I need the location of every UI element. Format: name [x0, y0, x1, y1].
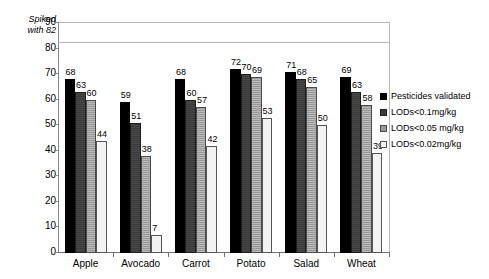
- bar-value-label: 63: [76, 81, 86, 90]
- bar: [196, 107, 207, 253]
- y-axis-tick-mark: [54, 252, 59, 253]
- y-axis-tick-mark: [54, 124, 59, 125]
- bar: [262, 118, 273, 253]
- x-axis-category-label: Carrot: [168, 258, 223, 270]
- bar: [151, 235, 162, 253]
- bar-value-label: 63: [352, 81, 362, 90]
- bar: [340, 77, 351, 253]
- legend-swatch-icon: [380, 125, 387, 132]
- bar: [296, 79, 307, 253]
- bar-group: 69635839: [340, 22, 382, 253]
- bar-value-label: 44: [97, 130, 107, 139]
- y-axis-labels: 9080706050403020100: [30, 16, 56, 258]
- legend-item-label: LODs<0.1mg/kg: [391, 107, 456, 117]
- legend-item[interactable]: Pesticides validated: [380, 88, 488, 104]
- bar: [175, 79, 186, 253]
- bar-value-label: 69: [252, 66, 262, 75]
- chart-legend: Pesticides validatedLODs<0.1mg/kgLODs<0.…: [380, 88, 488, 152]
- bar-group: 72706953: [230, 22, 272, 253]
- bar: [230, 69, 241, 253]
- bar: [75, 92, 86, 253]
- bar: [141, 156, 152, 253]
- x-axis-tick-mark: [279, 253, 280, 257]
- x-axis-category-label: Potato: [224, 258, 279, 270]
- bar: [317, 125, 328, 253]
- y-axis-tick-mark: [54, 99, 59, 100]
- y-axis-tick-mark: [54, 48, 59, 49]
- bar-value-label: 42: [207, 135, 217, 144]
- bar: [130, 123, 141, 253]
- legend-item[interactable]: LODs<0.02mg/kg: [380, 136, 488, 152]
- bar-value-label: 69: [341, 66, 351, 75]
- bar-value-label: 51: [131, 112, 141, 121]
- bar: [251, 77, 262, 253]
- bar-value-label: 68: [176, 68, 186, 77]
- bar: [285, 72, 296, 253]
- bar-value-label: 59: [121, 91, 131, 100]
- x-axis-category-label: Avocado: [113, 258, 168, 270]
- bar: [361, 105, 372, 253]
- bar-value-label: 53: [263, 107, 273, 116]
- bar-value-label: 68: [297, 68, 307, 77]
- y-axis-tick-mark: [54, 73, 59, 74]
- bar: [206, 146, 217, 253]
- y-axis-tick-mark: [54, 175, 59, 176]
- legend-swatch-icon: [380, 93, 387, 100]
- x-axis-tick-mark: [113, 253, 114, 257]
- bar: [120, 102, 131, 253]
- legend-swatch-icon: [380, 109, 387, 116]
- x-axis-tick-mark: [334, 253, 335, 257]
- bar-value-label: 57: [197, 96, 207, 105]
- bar-chart: Spiked with 82 9080706050403020100 68636…: [0, 0, 489, 279]
- x-axis-tick-mark: [168, 253, 169, 257]
- legend-item-label: Pesticides validated: [391, 91, 471, 101]
- bar: [65, 79, 76, 253]
- bar: [96, 141, 107, 253]
- legend-item-label: LODs<0.02mg/kg: [391, 139, 461, 149]
- bar-value-label: 38: [142, 145, 152, 154]
- y-axis-tick-mark: [54, 201, 59, 202]
- y-axis-tick-mark: [54, 150, 59, 151]
- legend-item-label: LODs<0.05 mg/kg: [391, 123, 464, 133]
- bar-group: 5951387: [120, 22, 162, 253]
- bar-value-label: 72: [231, 58, 241, 67]
- bar-value-label: 50: [318, 114, 328, 123]
- y-axis-tick-mark: [54, 22, 59, 23]
- bar-value-label: 65: [307, 76, 317, 85]
- bar: [306, 87, 317, 253]
- bar-group: 68605742: [175, 22, 217, 253]
- bar: [185, 100, 196, 253]
- x-axis-tick-mark: [389, 253, 390, 257]
- bar: [351, 92, 362, 253]
- bar-value-label: 70: [242, 63, 252, 72]
- bar-value-label: 71: [286, 61, 296, 70]
- legend-swatch-icon: [380, 141, 387, 148]
- legend-item[interactable]: LODs<0.05 mg/kg: [380, 120, 488, 136]
- bar: [372, 153, 383, 253]
- bar-value-label: 58: [362, 94, 372, 103]
- bar-value-label: 68: [66, 68, 76, 77]
- x-axis-category-label: Apple: [58, 258, 113, 270]
- bar-value-label: 7: [152, 224, 157, 233]
- x-axis-category-label: Wheat: [334, 258, 389, 270]
- legend-item[interactable]: LODs<0.1mg/kg: [380, 104, 488, 120]
- bar: [86, 100, 97, 253]
- bar: [241, 74, 252, 253]
- x-axis-category-label: Salad: [279, 258, 334, 270]
- x-axis-tick-mark: [224, 253, 225, 257]
- bar-value-label: 60: [186, 89, 196, 98]
- bar-value-label: 60: [87, 89, 97, 98]
- bar-group: 68636044: [65, 22, 107, 253]
- y-axis-tick-mark: [54, 226, 59, 227]
- bar-group: 71686550: [285, 22, 327, 253]
- plot-area: 6863604459513876860574272706953716865506…: [58, 22, 390, 253]
